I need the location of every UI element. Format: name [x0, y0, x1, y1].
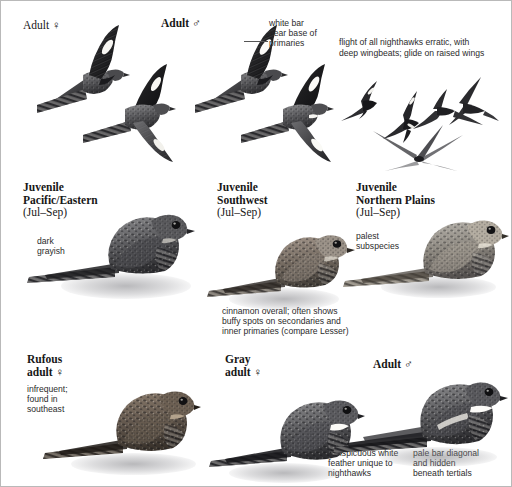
figure-perched-adult-male	[319, 363, 509, 461]
leader-line-white-bar	[244, 41, 268, 42]
figure-perched-juvenile-northern-plains	[331, 199, 509, 295]
label-juvenile-southwest: Juvenile Southwest	[217, 181, 267, 206]
silhouette-raised-wings	[449, 77, 499, 125]
figure-silhouette-group	[333, 63, 511, 171]
annotation-cinnamon-overall: cinnamon overall; often shows buffy spot…	[222, 306, 349, 337]
label-gray-adult-female: Gray adult ♀	[225, 353, 262, 378]
silhouette-deep-wingbeat	[383, 91, 419, 143]
field-guide-plate: Adult ♀ Adult ♂	[0, 0, 512, 487]
annotation-flight-behavior: flight of all nighthawks erratic, with d…	[339, 37, 484, 59]
silhouette-gliding	[341, 81, 377, 121]
figure-perched-rufous-adult-female	[31, 369, 201, 465]
figure-flight-female-lower	[77, 63, 207, 173]
annotation-white-bar: white bar near base of primaries	[269, 18, 317, 49]
figure-perched-juvenile-pacific-eastern	[19, 191, 199, 291]
silhouette-banking	[373, 125, 463, 171]
